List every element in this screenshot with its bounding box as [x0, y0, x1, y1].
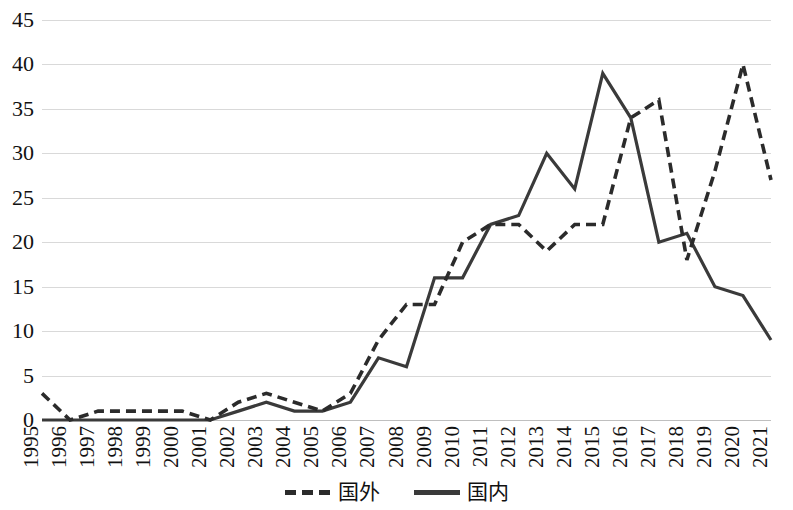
x-tick-label: 2000 — [161, 426, 182, 468]
x-axis: 1995199619971998199920002001200220032004… — [42, 420, 771, 490]
line-chart: 051015202530354045 199519961997199819992… — [0, 0, 793, 510]
x-tick-label: 2017 — [638, 426, 659, 468]
x-tick-label: 1999 — [133, 426, 154, 468]
y-tick-label: 25 — [12, 187, 34, 209]
x-tick-label: 2005 — [301, 426, 322, 468]
legend-label: 国内 — [467, 482, 509, 503]
x-tick-label: 2009 — [414, 426, 435, 468]
x-tick-label: 1996 — [49, 426, 70, 468]
chart-legend: 国外国内 — [0, 482, 793, 503]
y-tick-label: 5 — [23, 365, 34, 387]
plot-area — [42, 20, 771, 420]
x-tick-label: 2008 — [386, 426, 407, 468]
x-tick-label: 2011 — [470, 426, 491, 467]
x-tick-label: 2016 — [610, 426, 631, 468]
series-container — [42, 20, 771, 420]
y-tick-label: 15 — [12, 276, 34, 298]
x-tick-label: 2010 — [442, 426, 463, 468]
y-tick-label: 30 — [12, 142, 34, 164]
y-tick-label: 40 — [12, 53, 34, 75]
x-tick-label: 2006 — [329, 426, 350, 468]
x-tick-label: 2003 — [245, 426, 266, 468]
x-tick-label: 2018 — [666, 426, 687, 468]
x-tick-label: 2001 — [189, 426, 210, 468]
x-tick-label: 1998 — [105, 426, 126, 468]
legend-item[interactable]: 国内 — [414, 482, 509, 503]
x-tick-label: 2007 — [357, 426, 378, 468]
x-tick-label: 2015 — [582, 426, 603, 468]
legend-dashed-line-icon — [285, 490, 331, 495]
x-tick-label: 1995 — [21, 426, 42, 468]
x-tick-label: 2004 — [273, 426, 294, 468]
x-tick-label: 2013 — [526, 426, 547, 468]
x-tick-label: 2012 — [498, 426, 519, 468]
legend-item[interactable]: 国外 — [285, 482, 380, 503]
y-tick-label: 45 — [12, 9, 34, 31]
x-tick-label: 2002 — [217, 426, 238, 468]
y-axis: 051015202530354045 — [0, 0, 42, 440]
y-tick-label: 35 — [12, 98, 34, 120]
x-tick-label: 2020 — [722, 426, 743, 468]
y-tick-label: 10 — [12, 320, 34, 342]
x-tick-label: 2019 — [694, 426, 715, 468]
x-tick-label: 2021 — [750, 426, 771, 468]
x-tick-label: 1997 — [77, 426, 98, 468]
y-tick-label: 20 — [12, 231, 34, 253]
legend-label: 国外 — [338, 482, 380, 503]
legend-solid-line-icon — [414, 490, 460, 495]
x-tick-label: 2014 — [554, 426, 575, 468]
